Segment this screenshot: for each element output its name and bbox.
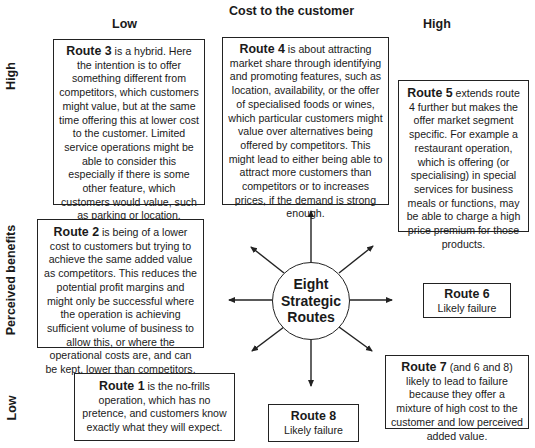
route-1-title: Route 1 [99,379,144,393]
route-2-text: is being of a lower cost to customers bu… [44,226,197,375]
route-3-text: is a hybrid. Here the intention is to of… [59,45,199,221]
route-7-box: Route 7 (and 6 and 8) likely to lead to … [385,355,529,429]
arrow-down-right [339,327,372,351]
route-5-text: extends route 4 further but makes the of… [407,87,521,250]
route-8-text: Likely failure [274,424,353,438]
route-4-box: Route 4 is about attracting market share… [222,37,389,205]
route-4-title: Route 4 [239,42,284,56]
route-6-box: Route 6 Likely failure [423,283,511,318]
route-3-box: Route 3 is a hybrid. Here the intention … [53,39,205,205]
center-line-2: Strategic [281,293,341,310]
arrow-up-right [339,246,373,273]
arrow-down-left [252,327,284,351]
center-line-3: Routes [287,309,334,326]
route-6-text: Likely failure [429,302,505,316]
center-line-1: Eight [294,276,329,293]
route-4-text: is about attracting market share through… [228,43,382,219]
route-2-box: Route 2 is being of a lower cost to cust… [37,219,204,348]
route-8-title: Route 8 [274,409,353,424]
route-8-box: Route 8 Likely failure [268,404,359,442]
route-5-title: Route 5 [407,86,452,100]
route-1-box: Route 1 is the no-frills operation, whic… [74,373,235,441]
route-6-title: Route 6 [429,287,505,302]
route-2-title: Route 2 [54,225,99,239]
arrow-up-left [251,247,284,273]
route-5-box: Route 5 extends route 4 further but make… [398,80,529,232]
route-3-title: Route 3 [66,44,111,58]
center-circle: Eight Strategic Routes [272,262,350,340]
route-7-title: Route 7 [401,360,446,374]
